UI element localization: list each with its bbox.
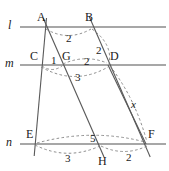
line-label-l: l: [8, 19, 11, 31]
measure-ef: 5: [90, 133, 96, 144]
measure-df: x: [131, 99, 136, 110]
point-label-G: G: [62, 50, 71, 62]
point-label-B: B: [85, 11, 93, 23]
parallel-lines-group: [20, 27, 166, 144]
arc-hf: [101, 146, 147, 152]
line-label-n: n: [6, 136, 12, 148]
point-label-D: D: [110, 50, 119, 62]
measure-ab: 2: [66, 33, 72, 44]
measure-bd: 2: [96, 45, 102, 56]
figure-canvas: [0, 0, 169, 171]
transversal-ace: [34, 18, 46, 156]
geometry-figure: l m n A B C G D E H F 2 2 1 2 3 x 5 3 2: [0, 0, 169, 171]
point-label-F: F: [148, 128, 155, 140]
measure-cg: 1: [51, 55, 57, 66]
point-label-E: E: [26, 128, 33, 140]
point-label-A: A: [37, 11, 46, 23]
measure-eh: 3: [65, 153, 71, 164]
segment-df: [108, 65, 146, 144]
transversal-bdf: [89, 16, 150, 157]
arc-cg: [42, 66, 62, 70]
measure-hf: 2: [126, 152, 132, 163]
measure-gd: 2: [84, 56, 90, 67]
measure-cd: 3: [75, 72, 81, 83]
point-label-C: C: [30, 50, 38, 62]
point-label-H: H: [98, 155, 107, 167]
line-label-m: m: [5, 57, 14, 69]
